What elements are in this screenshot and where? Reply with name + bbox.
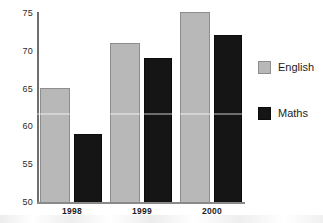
legend-swatch-icon [258,61,271,74]
bar-group-1999 [109,12,175,203]
bar-english-2000[interactable] [180,12,210,203]
bar-english-1998[interactable] [40,88,70,203]
bar-group-1998 [39,12,105,203]
x-axis-line [37,202,245,204]
bar-maths-1999[interactable] [144,58,172,203]
legend-label: English [278,61,314,73]
legend: English Maths [258,60,322,152]
bar-maths-2000[interactable] [214,35,242,203]
bar-chart: 75 70 65 60 55 50 1998 19 [0,0,323,223]
legend-label: Maths [278,107,308,119]
bar-group-2000 [179,12,245,203]
plot-area [39,12,245,203]
legend-item-maths[interactable]: Maths [258,106,322,120]
legend-swatch-icon [258,107,271,120]
y-tick-label: 70 [7,47,33,56]
bar-maths-1998[interactable] [74,134,102,203]
y-tick-label: 55 [7,160,33,169]
page-edge-artifact [0,215,323,223]
y-tick-label: 50 [7,198,33,207]
y-tick-label: 65 [7,85,33,94]
legend-item-english[interactable]: English [258,60,322,74]
y-tick-label: 75 [7,9,33,18]
bar-english-1999[interactable] [110,43,140,203]
y-tick-label: 60 [7,122,33,131]
